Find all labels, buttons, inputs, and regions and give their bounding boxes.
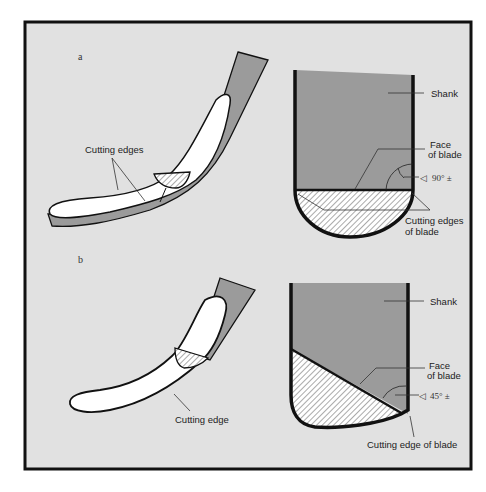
label-shank: Shank bbox=[430, 296, 457, 307]
angle-value: 45° ± bbox=[430, 391, 450, 401]
angle-value: 90° ± bbox=[432, 173, 452, 183]
angle-symbol: ◁ bbox=[419, 391, 426, 401]
label-cutting-edges-of-blade: Cutting edges bbox=[405, 215, 464, 226]
label-cutting-edges-of-blade-2: of blade bbox=[405, 226, 439, 237]
panel-a-letter: a bbox=[78, 51, 83, 62]
label-of-blade: of blade bbox=[428, 149, 462, 160]
label-of-blade: of blade bbox=[427, 370, 461, 381]
label-cutting-edges: Cutting edges bbox=[85, 144, 144, 155]
angle-symbol: ◁ bbox=[420, 173, 427, 183]
panel-b-letter: b bbox=[78, 254, 83, 265]
gouge-blade-diagram: a Cutting edges bbox=[0, 0, 486, 492]
label-cutting-edge-of-blade: Cutting edge of blade bbox=[367, 439, 457, 450]
shank-rect bbox=[295, 70, 413, 190]
label-shank: Shank bbox=[431, 88, 458, 99]
label-cutting-edge: Cutting edge bbox=[175, 414, 229, 425]
